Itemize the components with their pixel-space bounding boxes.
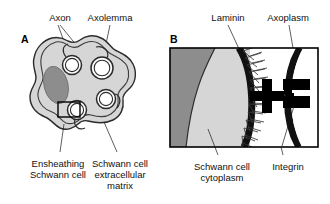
panel-b-contents bbox=[170, 46, 318, 148]
figure-root: A Axon Axolemma bbox=[0, 0, 330, 204]
axon-lumen-2 bbox=[94, 60, 110, 76]
axon-lumen-3 bbox=[99, 92, 112, 105]
label-ensheathing-line2: Schwann cell bbox=[30, 169, 86, 180]
panel-a-letter: A bbox=[21, 33, 29, 45]
label-ensheathing-line1: Ensheathing bbox=[32, 158, 85, 169]
integrin-stem-lower bbox=[286, 93, 294, 99]
label-laminin: Laminin bbox=[211, 12, 244, 23]
label-ecm-line3: matrix bbox=[107, 180, 133, 191]
label-cytoplasm-line2: cytoplasm bbox=[201, 172, 244, 183]
label-axoplasm: Axoplasm bbox=[267, 12, 309, 23]
axon-lumen-1 bbox=[65, 58, 78, 71]
panel-b-letter: B bbox=[170, 33, 178, 45]
label-axolemma: Axolemma bbox=[88, 12, 134, 23]
label-cytoplasm-line1: Schwann cell bbox=[194, 161, 250, 172]
label-ecm-line1: Schwann cell bbox=[92, 158, 148, 169]
label-integrin: Integrin bbox=[272, 161, 304, 172]
figure-canvas: A Axon Axolemma bbox=[0, 0, 330, 204]
integrin-cross-vertical bbox=[262, 79, 272, 113]
axon-lumen-4 bbox=[70, 103, 83, 116]
label-axon: Axon bbox=[49, 12, 71, 23]
label-ecm-line2: extracellular bbox=[94, 169, 145, 180]
